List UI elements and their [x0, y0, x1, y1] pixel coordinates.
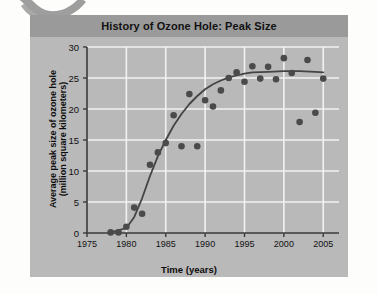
x-axis-tick-label: 1990 [188, 239, 222, 249]
data-point [281, 55, 288, 62]
x-axis-tick-label: 1985 [149, 239, 183, 249]
data-point [115, 229, 122, 236]
x-axis-tick-label: 1980 [109, 239, 143, 249]
data-point [170, 112, 177, 119]
data-point [194, 143, 201, 150]
data-point [257, 75, 264, 82]
data-point [249, 63, 256, 70]
chart-figure: History of Ozone Hole: Peak Size Average… [30, 15, 348, 277]
data-point [296, 119, 303, 126]
y-axis-tick-label: 10 [57, 166, 79, 177]
y-axis-tick-label: 5 [57, 197, 79, 208]
plot-area: Average peak size of ozone hole (million… [30, 37, 348, 277]
data-point [210, 103, 217, 110]
x-axis-tick-label: 2000 [267, 239, 301, 249]
y-axis-tick-label: 20 [57, 104, 79, 115]
data-point [155, 149, 162, 156]
data-point [233, 69, 240, 76]
data-point [107, 229, 114, 236]
data-point [186, 91, 193, 98]
data-point [225, 75, 232, 82]
x-axis-tick-label: 1975 [70, 239, 104, 249]
data-point [178, 143, 185, 150]
data-point [147, 162, 154, 169]
data-point [265, 64, 272, 71]
chart-title: History of Ozone Hole: Peak Size [101, 20, 277, 32]
data-point [320, 75, 327, 82]
y-axis-tick-label: 25 [57, 73, 79, 84]
data-point [312, 109, 319, 116]
data-point [288, 70, 295, 77]
y-axis-tick-label: 0 [57, 228, 79, 239]
data-point [162, 140, 169, 147]
x-axis-tick-label: 2005 [306, 239, 340, 249]
data-point [241, 78, 248, 85]
y-axis-tick-label: 30 [57, 42, 79, 53]
y-axis-tick-label: 15 [57, 135, 79, 146]
data-point [131, 204, 138, 211]
data-point [218, 87, 225, 94]
data-point [139, 210, 146, 217]
chart-title-band: History of Ozone Hole: Peak Size [30, 15, 348, 37]
x-axis-tick-label: 1995 [228, 239, 262, 249]
data-point [202, 97, 209, 104]
data-point [304, 57, 311, 64]
data-point [123, 224, 130, 231]
x-axis-label: Time (years) [30, 264, 348, 275]
data-point [273, 76, 280, 83]
